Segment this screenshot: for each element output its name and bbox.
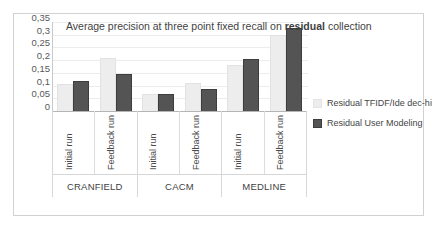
category-run-cell: Feedback run bbox=[180, 111, 221, 174]
category-run-cells: Initial runFeedback run bbox=[138, 111, 222, 174]
category-group: Initial runFeedback runCRANFIELD bbox=[52, 111, 138, 197]
category-run-cells: Initial runFeedback run bbox=[53, 111, 137, 174]
legend-item[interactable]: Residual TFIDF/Ide dec-hi bbox=[313, 98, 421, 108]
chart-figure: 0,350,30,250,20,150,10,050 Average preci… bbox=[13, 13, 424, 216]
category-group-label: MEDLINE bbox=[222, 174, 306, 197]
y-axis-tick-label: 0,05 bbox=[32, 90, 51, 100]
chart-legend: Residual TFIDF/Ide dec-hiResidual User M… bbox=[313, 98, 421, 138]
bar-series-container bbox=[52, 22, 307, 111]
bar bbox=[201, 89, 217, 111]
category-group: Initial runFeedback runMEDLINE bbox=[222, 111, 307, 197]
bar bbox=[116, 74, 132, 111]
bar bbox=[142, 94, 158, 111]
y-axis-tick-label: 0,25 bbox=[32, 39, 51, 49]
x-axis-tick-label: Feedback run bbox=[276, 115, 285, 170]
category-group: Initial runFeedback runCACM bbox=[138, 111, 223, 197]
bar-group bbox=[180, 22, 223, 111]
bar bbox=[100, 58, 116, 111]
legend-item-label: Residual User Modeling bbox=[327, 118, 423, 128]
category-axis: Initial runFeedback runCRANFIELDInitial … bbox=[52, 111, 307, 197]
category-run-cell: Initial run bbox=[138, 111, 180, 174]
chart-title-text-before: Average precision at three point fixed r… bbox=[66, 20, 285, 32]
bar-group bbox=[137, 22, 180, 111]
y-axis-tick-label: 0,3 bbox=[37, 26, 50, 36]
y-axis-tick-label: 0,15 bbox=[32, 64, 51, 74]
y-axis: 0,350,30,250,20,150,10,050 bbox=[20, 18, 50, 111]
bar-group bbox=[52, 22, 95, 111]
legend-item[interactable]: Residual User Modeling bbox=[313, 118, 421, 128]
category-run-cell: Initial run bbox=[53, 111, 95, 174]
y-axis-tick-label: 0 bbox=[45, 102, 50, 112]
x-axis-tick-label: Initial run bbox=[65, 133, 74, 170]
bar-group bbox=[265, 22, 308, 111]
bar-group bbox=[222, 22, 265, 111]
bar bbox=[185, 83, 201, 111]
chart-title-emphasis: residual bbox=[285, 20, 325, 32]
y-axis-tick-label: 0,35 bbox=[32, 13, 51, 23]
legend-item-label: Residual TFIDF/Ide dec-hi bbox=[327, 98, 432, 108]
bar bbox=[57, 84, 73, 111]
bar-group bbox=[95, 22, 138, 111]
category-group-label: CRANFIELD bbox=[53, 174, 137, 197]
x-axis-tick-label: Initial run bbox=[234, 133, 243, 170]
chart-title: Average precision at three point fixed r… bbox=[66, 20, 416, 32]
category-run-cell: Feedback run bbox=[265, 111, 306, 174]
bar bbox=[243, 59, 259, 111]
bar bbox=[158, 94, 174, 111]
chart-title-text-after: collection bbox=[325, 20, 372, 32]
category-run-cell: Feedback run bbox=[95, 111, 136, 174]
plot-wrapper: 0,350,30,250,20,150,10,050 Average preci… bbox=[14, 14, 425, 217]
x-axis-tick-label: Feedback run bbox=[107, 115, 116, 170]
category-run-cell: Initial run bbox=[222, 111, 264, 174]
y-axis-tick-label: 0,2 bbox=[37, 51, 50, 61]
legend-swatch-icon bbox=[313, 119, 322, 128]
bar bbox=[73, 81, 89, 112]
category-run-cells: Initial runFeedback run bbox=[222, 111, 306, 174]
x-axis-tick-label: Feedback run bbox=[192, 115, 201, 170]
y-axis-tick-label: 0,1 bbox=[37, 77, 50, 87]
x-axis-tick-label: Initial run bbox=[149, 133, 158, 170]
category-group-label: CACM bbox=[138, 174, 222, 197]
bar bbox=[227, 65, 243, 111]
legend-swatch-icon bbox=[313, 99, 322, 108]
bar bbox=[286, 28, 302, 111]
bar bbox=[270, 35, 286, 111]
